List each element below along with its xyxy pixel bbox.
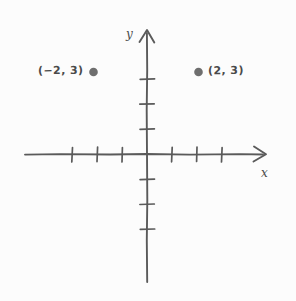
point-label-two-three: (2, 3) — [208, 64, 244, 77]
y-axis-label: y — [126, 27, 133, 41]
y-axis-line — [147, 33, 148, 282]
x-axis-label: x — [261, 166, 268, 180]
point-label-negative-two-three: (−2, 3) — [38, 64, 84, 77]
coordinate-plane-figure: (−2, 3) (2, 3) y x — [0, 0, 296, 301]
data-point-marker[interactable] — [194, 68, 203, 77]
data-point-marker[interactable] — [89, 68, 98, 77]
x-axis-line — [25, 154, 263, 155]
axes-drawing — [0, 0, 296, 301]
